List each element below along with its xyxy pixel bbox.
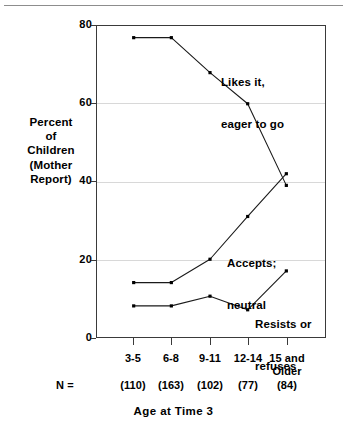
data-point-marker xyxy=(208,295,211,298)
x-tick-label-4-line-1: 15 and xyxy=(260,352,314,365)
y-axis-title-line-1: Percent xyxy=(12,115,90,129)
y-axis-title-line-2: of xyxy=(12,129,90,143)
x-tick-mark-0 xyxy=(133,338,134,345)
y-tick-label-80: 80 xyxy=(52,19,92,30)
data-point-marker xyxy=(285,184,288,187)
annotation-resists-refuses-line-1: Resists or xyxy=(255,317,312,331)
x-tick-mark-4 xyxy=(287,338,288,345)
data-point-marker xyxy=(208,71,211,74)
data-point-marker xyxy=(170,281,173,284)
annotation-likes-it-line-1: Likes it, xyxy=(221,75,284,89)
n-caption-label: N = xyxy=(56,379,74,391)
data-point-marker xyxy=(246,215,249,218)
y-axis-title-line-4: (Mother xyxy=(12,158,90,172)
annotation-likes-it-line-2: eager to go xyxy=(221,117,284,131)
x-tick-mark-1 xyxy=(171,338,172,345)
x-tick-mark-2 xyxy=(210,338,211,345)
data-point-marker xyxy=(285,172,288,175)
chart-figure: Percent of Children (Mother Report) 80 6… xyxy=(0,0,347,428)
n-value-4: (84) xyxy=(260,379,314,391)
y-tick-label-20: 20 xyxy=(52,254,92,265)
y-tick-mark-0 xyxy=(91,338,96,339)
y-tick-label-40: 40 xyxy=(52,175,92,186)
data-point-marker xyxy=(208,258,211,261)
annotation-accepts-neutral-line-1: Accepts; xyxy=(227,256,276,270)
x-tick-mark-3 xyxy=(248,338,249,345)
x-tick-label-4: 15 and Older xyxy=(260,352,314,378)
y-tick-label-0: 0 xyxy=(52,332,92,343)
data-point-marker xyxy=(170,304,173,307)
y-axis-title-line-3: Children xyxy=(12,143,90,157)
x-tick-label-4-line-2: Older xyxy=(260,365,314,378)
x-axis-title: Age at Time 3 xyxy=(0,405,347,417)
annotation-likes-it: Likes it, eager to go xyxy=(221,47,284,159)
data-point-marker xyxy=(285,269,288,272)
y-tick-label-60: 60 xyxy=(52,97,92,108)
data-point-marker xyxy=(132,304,135,307)
data-point-marker xyxy=(132,281,135,284)
data-point-marker xyxy=(132,36,135,39)
top-divider-rule xyxy=(4,5,343,6)
data-point-marker xyxy=(170,36,173,39)
